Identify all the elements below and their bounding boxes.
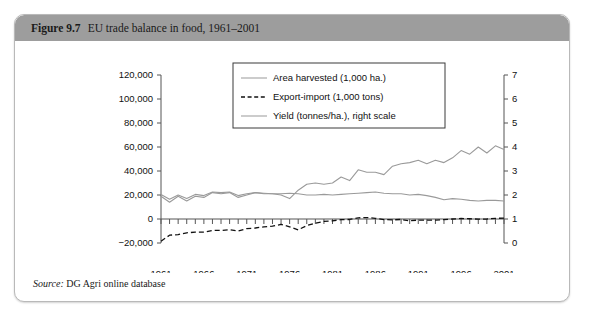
- figure-number: Figure 9.7: [31, 22, 81, 34]
- chart-plot-area: −20,000020,00040,00060,00080,000100,0001…: [15, 41, 569, 273]
- x-axis-tick-label: 2001: [493, 268, 514, 273]
- x-axis-tick-label: 1986: [365, 268, 386, 273]
- right-axis-tick-label: 3: [512, 165, 517, 176]
- x-axis-tick-label: 1996: [451, 268, 472, 273]
- left-axis-tick-label: 120,000: [119, 69, 153, 80]
- legend-label: Export-import (1,000 tons): [273, 91, 383, 102]
- right-axis-tick-label: 6: [512, 93, 517, 104]
- right-axis-tick-label: 1: [512, 213, 517, 224]
- legend-label: Yield (tonnes/ha.), right scale: [273, 110, 396, 121]
- left-axis-tick-label: −20,000: [118, 237, 153, 248]
- figure-title-bar: Figure 9.7 EU trade balance in food, 196…: [15, 15, 569, 41]
- series-line: [161, 192, 504, 201]
- left-axis-tick-label: 80,000: [124, 117, 153, 128]
- left-axis-tick-label: 60,000: [124, 141, 153, 152]
- series-line: [161, 146, 504, 202]
- x-axis-tick-label: 1966: [193, 268, 214, 273]
- legend-label: Area harvested (1,000 ha.): [273, 72, 386, 83]
- source-text: DG Agri online database: [66, 278, 165, 289]
- left-axis-tick-label: 20,000: [124, 189, 153, 200]
- x-axis-tick-label: 1981: [322, 268, 343, 273]
- figure-card: Figure 9.7 EU trade balance in food, 196…: [14, 14, 570, 302]
- right-axis-tick-label: 0: [512, 237, 517, 248]
- x-axis-tick-label: 1961: [150, 268, 171, 273]
- x-axis-tick-label: 1971: [236, 268, 257, 273]
- figure-title: EU trade balance in food, 1961–2001: [88, 22, 260, 34]
- trade-balance-line-chart: −20,000020,00040,00060,00080,000100,0001…: [15, 41, 570, 273]
- left-axis-tick-label: 40,000: [124, 165, 153, 176]
- source-note: Source: DG Agri online database: [33, 278, 165, 289]
- x-axis-tick-label: 1991: [408, 268, 429, 273]
- left-axis-tick-label: 0: [148, 213, 153, 224]
- right-axis-tick-label: 2: [512, 189, 517, 200]
- x-axis-tick-label: 1976: [279, 268, 300, 273]
- right-axis-tick-label: 4: [512, 141, 517, 152]
- left-axis-tick-label: 100,000: [119, 93, 153, 104]
- source-label: Source:: [33, 278, 64, 289]
- right-axis-tick-label: 5: [512, 117, 517, 128]
- right-axis-tick-label: 7: [512, 69, 517, 80]
